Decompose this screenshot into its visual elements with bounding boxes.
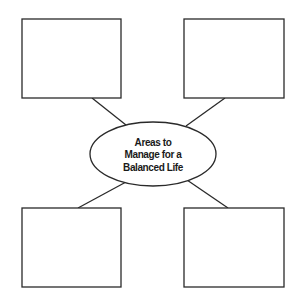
connector-top-left <box>92 98 126 125</box>
center-line-3: Balanced Life <box>123 162 184 173</box>
concept-map: Areas to Manage for a Balanced Life <box>0 0 298 302</box>
box-bottom-right[interactable] <box>184 208 284 287</box>
connector-bottom-right <box>187 180 228 208</box>
center-line-1: Areas to <box>135 137 172 148</box>
box-top-right[interactable] <box>184 19 284 98</box>
box-bottom-left[interactable] <box>22 208 121 287</box>
center-line-2: Manage for a <box>125 149 183 160</box>
connector-bottom-left <box>78 182 126 208</box>
box-top-left[interactable] <box>22 19 121 98</box>
connector-top-right <box>186 98 225 126</box>
